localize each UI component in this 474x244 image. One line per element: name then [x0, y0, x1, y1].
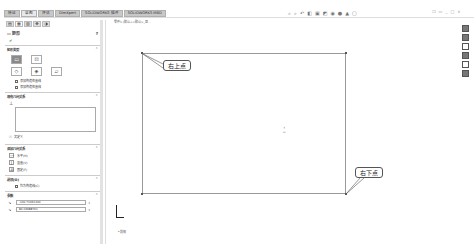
file-explorer-icon[interactable] — [462, 43, 469, 50]
custom-properties-icon[interactable] — [462, 70, 469, 77]
axis-triad-icon — [116, 205, 124, 218]
callout-bottom-right-point: 右下点 — [355, 167, 383, 178]
view-label: *前视 — [118, 230, 126, 234]
resources-icon[interactable] — [462, 25, 469, 32]
task-pane-tabs — [462, 25, 469, 77]
callout-top-right-point: 右上点 — [163, 60, 191, 71]
origin-icon: ↑↦ — [283, 126, 286, 134]
view-palette-icon[interactable] — [462, 52, 469, 59]
callout-leaders — [0, 0, 474, 244]
design-library-icon[interactable] — [462, 34, 469, 41]
appearances-icon[interactable] — [462, 61, 469, 68]
